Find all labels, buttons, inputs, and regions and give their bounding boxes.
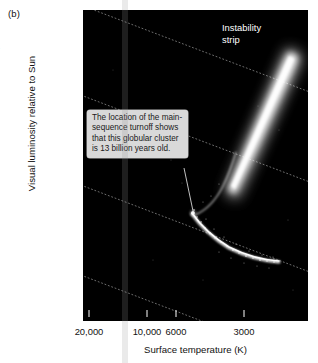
x-tick-label: 3000 (214, 326, 274, 337)
x-tick-label: 20,000 (59, 326, 119, 337)
x-axis-title: Surface temperature (K) (83, 344, 308, 355)
panel-letter: (b) (8, 8, 20, 19)
hr-diagram-figure: (b) 10⁶ 10⁵ 10⁴ 10³ 10² 10¹ 1 10⁻¹ 10⁻² … (0, 0, 318, 363)
plot-area: Instability strip The location of the ma… (83, 10, 308, 321)
turnoff-callout-box: The location of the main-sequence turnof… (87, 110, 188, 158)
instability-strip-label: Instability strip (222, 22, 261, 45)
plot-canvas (83, 10, 308, 321)
x-tick-label: 6000 (146, 326, 206, 337)
y-axis-title: Visual luminosity relative to Sun (26, 9, 37, 239)
